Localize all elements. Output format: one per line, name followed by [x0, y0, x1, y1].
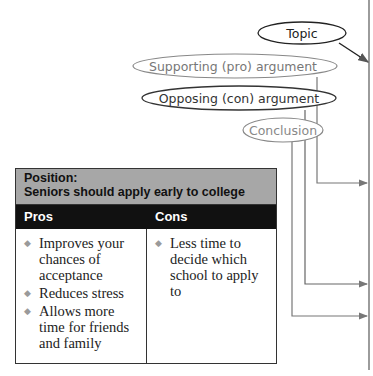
pro-text: Improves your chances of acceptance — [39, 235, 142, 283]
cons-column: ◆Less time to decide which school to app… — [147, 229, 276, 363]
list-item: ◆Improves your chances of acceptance — [24, 235, 142, 283]
table-body: ◆Improves your chances of acceptance ◆Re… — [16, 229, 276, 363]
pro-text: Allows more time for friends and family — [39, 303, 142, 351]
diamond-bullet-icon: ◆ — [24, 235, 39, 283]
conclusion-connector — [292, 142, 367, 316]
conclusion-label: Conclusion — [249, 123, 317, 138]
pros-header: Pros — [16, 205, 147, 229]
position-label: Position: — [24, 171, 276, 185]
diamond-bullet-icon: ◆ — [24, 285, 39, 301]
cons-header: Cons — [147, 205, 276, 229]
column-headers: Pros Cons — [16, 205, 276, 229]
diamond-bullet-icon: ◆ — [155, 235, 170, 299]
position-text: Seniors should apply early to college — [24, 185, 276, 199]
topic-node: Topic — [258, 22, 346, 44]
position-table: Position: Seniors should apply early to … — [15, 168, 277, 364]
supporting-node: Supporting (pro) argument — [133, 54, 337, 78]
pro-text: Reduces stress — [39, 285, 124, 301]
opposing-node: Opposing (con) argument — [142, 86, 336, 110]
topic-arrow — [339, 43, 368, 62]
pros-column: ◆Improves your chances of acceptance ◆Re… — [16, 229, 147, 363]
supporting-label: Supporting (pro) argument — [149, 59, 317, 74]
con-text: Less time to decide which school to appl… — [170, 235, 272, 299]
list-item: ◆Less time to decide which school to app… — [155, 235, 272, 299]
topic-label: Topic — [285, 26, 318, 41]
opposing-label: Opposing (con) argument — [159, 91, 320, 106]
list-item: ◆Allows more time for friends and family — [24, 303, 142, 351]
position-header: Position: Seniors should apply early to … — [16, 169, 276, 205]
list-item: ◆Reduces stress — [24, 285, 142, 301]
diamond-bullet-icon: ◆ — [24, 303, 39, 351]
conclusion-node: Conclusion — [243, 118, 323, 142]
